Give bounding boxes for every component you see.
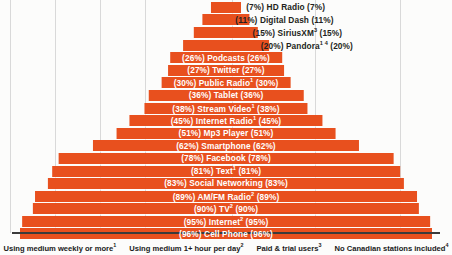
bar-row: (90%) TV2 (90%) bbox=[0, 203, 452, 216]
bar-row: (20%) Pandora1 4 (20%) bbox=[0, 39, 452, 52]
bar-segment bbox=[194, 27, 258, 38]
bar-label: (15%) SiriusXM3 (15%) bbox=[253, 28, 343, 37]
bar-label: (26%) Podcasts (26%) bbox=[182, 54, 270, 62]
bar-label: (11%) Digital Dash (11%) bbox=[235, 16, 333, 24]
bar-row: (89%) AM/FM Radio2 (89%) bbox=[0, 190, 452, 203]
bar-row: (45%) Internet Radio1 (45%) bbox=[0, 114, 452, 127]
pyramid-chart: (7%) HD Radio (7%)(11%) Digital Dash (11… bbox=[0, 0, 452, 255]
bar-label: (7%) HD Radio (7%) bbox=[246, 3, 325, 11]
bar-label: (27%) Twitter (27%) bbox=[187, 66, 264, 74]
bar-row: (15%) SiriusXM3 (15%) bbox=[0, 26, 452, 39]
bar-row: (95%) Internet2 (95%) bbox=[0, 215, 452, 228]
bar-row: (62%) Smartphone (62%) bbox=[0, 140, 452, 153]
bar-label: (30%) Public Radio1 (30%) bbox=[174, 78, 279, 87]
legend-item: Using medium weekly or more1 bbox=[4, 242, 117, 253]
pyramid-bars: (7%) HD Radio (7%)(11%) Digital Dash (11… bbox=[0, 1, 452, 233]
legend-item: Paid & trial users3 bbox=[256, 242, 321, 253]
bar-label: (89%) AM/FM Radio2 (89%) bbox=[173, 192, 280, 201]
bar-segment bbox=[211, 2, 241, 13]
bar-row: (78%) Facebook (78%) bbox=[0, 152, 452, 165]
bar-label: (62%) Smartphone (62%) bbox=[176, 142, 275, 150]
bar-label: (36%) Tablet (36%) bbox=[189, 91, 264, 99]
bar-label: (78%) Facebook (78%) bbox=[181, 154, 271, 162]
bar-label: (38%) Stream Video1 (38%) bbox=[172, 104, 279, 113]
bar-row: (36%) Tablet (36%) bbox=[0, 89, 452, 102]
bar-label: (83%) Social Networking (83%) bbox=[164, 179, 288, 187]
bar-row: (11%) Digital Dash (11%) bbox=[0, 14, 452, 27]
bar-row: (30%) Public Radio1 (30%) bbox=[0, 77, 452, 90]
bar-row: (81%) Text1 (81%) bbox=[0, 165, 452, 178]
bar-label: (95%) Internet2 (95%) bbox=[184, 217, 269, 226]
footnote-legend: Using medium weekly or more1Using medium… bbox=[0, 242, 452, 253]
bar-row: (27%) Twitter (27%) bbox=[0, 64, 452, 77]
legend-item: No Canadian stations included4 bbox=[335, 242, 449, 253]
bar-row: (83%) Social Networking (83%) bbox=[0, 177, 452, 190]
legend-item: Using medium 1+ hour per day2 bbox=[129, 242, 243, 253]
bar-label: (20%) Pandora1 4 (20%) bbox=[261, 41, 353, 50]
bar-label: (51%) Mp3 Player (51%) bbox=[179, 129, 274, 137]
bar-row: (51%) Mp3 Player (51%) bbox=[0, 127, 452, 140]
bar-row: (7%) HD Radio (7%) bbox=[0, 1, 452, 14]
bar-row: (26%) Podcasts (26%) bbox=[0, 51, 452, 64]
bar-label: (81%) Text1 (81%) bbox=[191, 166, 261, 175]
bar-segment bbox=[183, 40, 269, 51]
bar-label: (90%) TV2 (90%) bbox=[194, 204, 258, 213]
bar-label: (45%) Internet Radio1 (45%) bbox=[171, 116, 281, 125]
bar-label: (96%) Cell Phone (96%) bbox=[179, 230, 273, 238]
bar-row: (38%) Stream Video1 (38%) bbox=[0, 102, 452, 115]
